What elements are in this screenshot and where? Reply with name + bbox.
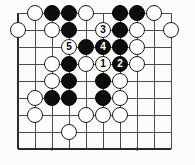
star-point-2 bbox=[51, 148, 54, 151]
stone-white-move-3[interactable]: 3 bbox=[95, 22, 111, 38]
stone-white-move-5[interactable]: 5 bbox=[61, 39, 77, 55]
stone-black-c4r2[interactable] bbox=[78, 39, 94, 55]
stone-white-c6r5[interactable] bbox=[112, 90, 128, 106]
stone-black-c2r0[interactable] bbox=[44, 5, 60, 21]
stone-white-c0r1[interactable] bbox=[10, 22, 26, 38]
stone-black-c6r1[interactable] bbox=[112, 22, 128, 38]
stone-black-move-2[interactable]: 2 bbox=[112, 56, 128, 72]
stone-black-c5r4[interactable] bbox=[95, 73, 111, 89]
stone-white-c2r3[interactable] bbox=[44, 56, 60, 72]
stone-white-c9r1[interactable] bbox=[163, 22, 179, 38]
stone-black-c2r5[interactable] bbox=[44, 90, 60, 106]
stone-white-c7r3[interactable] bbox=[129, 56, 145, 72]
stone-white-c6r4[interactable] bbox=[112, 73, 128, 89]
stone-white-c7r2[interactable] bbox=[129, 39, 145, 55]
stone-move-number-label: 4 bbox=[100, 42, 105, 52]
stone-white-c5r6[interactable] bbox=[95, 107, 111, 123]
stone-white-c4r0[interactable] bbox=[78, 5, 94, 21]
stone-black-c6r2[interactable] bbox=[112, 39, 128, 55]
grid-line-horizontal-7 bbox=[18, 132, 171, 133]
stone-white-c2r1[interactable] bbox=[44, 22, 60, 38]
stone-white-c1r0[interactable] bbox=[27, 5, 43, 21]
stone-black-c3r3[interactable] bbox=[61, 56, 77, 72]
stone-move-number-label: 1 bbox=[100, 59, 105, 69]
stone-white-move-1[interactable]: 1 bbox=[95, 56, 111, 72]
stone-black-c5r5[interactable] bbox=[95, 90, 111, 106]
stone-white-c8r0[interactable] bbox=[146, 5, 162, 21]
go-board: 35412 bbox=[0, 0, 195, 165]
stone-move-number-label: 5 bbox=[66, 42, 71, 52]
stone-white-c7r1[interactable] bbox=[129, 22, 145, 38]
stone-black-c6r0[interactable] bbox=[112, 5, 128, 21]
stone-white-c1r6[interactable] bbox=[27, 107, 43, 123]
stone-white-c1r5[interactable] bbox=[27, 90, 43, 106]
stone-black-c3r0[interactable] bbox=[61, 5, 77, 21]
stone-white-c4r3[interactable] bbox=[78, 56, 94, 72]
star-point-1 bbox=[136, 148, 139, 151]
stone-black-c7r0[interactable] bbox=[129, 5, 145, 21]
stone-white-c6r6[interactable] bbox=[112, 107, 128, 123]
stone-white-c3r7[interactable] bbox=[61, 124, 77, 140]
stone-move-number-label: 3 bbox=[100, 25, 105, 35]
grid-line-horizontal-8 bbox=[18, 148, 171, 150]
stone-black-move-4[interactable]: 4 bbox=[95, 39, 111, 55]
stone-white-c4r6[interactable] bbox=[78, 107, 94, 123]
stone-black-c3r4[interactable] bbox=[61, 73, 77, 89]
stone-black-c3r5[interactable] bbox=[61, 90, 77, 106]
stone-white-c2r4[interactable] bbox=[44, 73, 60, 89]
stone-move-number-label: 2 bbox=[117, 59, 122, 69]
stone-black-c3r1[interactable] bbox=[61, 22, 77, 38]
go-diagram: 35412 bbox=[0, 0, 195, 165]
